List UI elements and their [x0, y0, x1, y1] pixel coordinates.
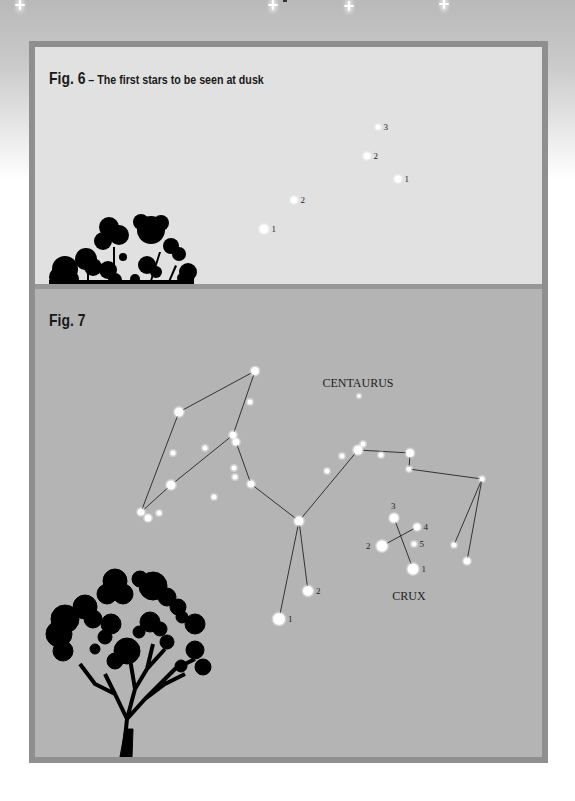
- star-icon: [377, 541, 388, 552]
- star-icon: [303, 586, 313, 596]
- bush-silhouette-icon: [49, 214, 197, 284]
- fig6-stars: [258, 123, 403, 235]
- star-label: 1: [405, 174, 410, 184]
- star-label: 1: [272, 224, 277, 234]
- constellation-name-crux: CRUX: [392, 589, 426, 603]
- star-icon: [157, 511, 162, 516]
- constellation-line: [454, 479, 482, 545]
- constellation-line: [236, 442, 299, 521]
- star-icon: [452, 543, 457, 548]
- star-icon: [203, 446, 208, 451]
- star-label: 5: [420, 539, 425, 549]
- star-label: 3: [391, 501, 396, 511]
- fig7-star-labels: 2134251: [288, 501, 429, 624]
- fig6-star-chart: 12213: [35, 47, 542, 284]
- tree-silhouette-icon: [46, 569, 211, 757]
- constellation-line: [467, 479, 482, 561]
- star-icon: [361, 442, 366, 447]
- star-label: 2: [316, 586, 321, 596]
- star-icon: [167, 481, 176, 490]
- star-icon: [233, 475, 238, 480]
- star-icon: [291, 197, 298, 204]
- star-icon: [175, 408, 184, 417]
- fig7-star-chart: 2134251 CENTAURUSCRUX: [35, 289, 542, 757]
- constellation-line: [279, 521, 299, 619]
- star-icon: [414, 524, 421, 531]
- star-icon: [364, 153, 371, 160]
- star-icon: [390, 514, 399, 523]
- sparkle-star-icon: [439, 0, 449, 9]
- star-label: 4: [424, 522, 429, 532]
- star-label: 2: [374, 151, 379, 161]
- star-icon: [412, 542, 417, 547]
- fig7-stars: [136, 366, 486, 627]
- star-icon: [232, 466, 237, 471]
- sparkle-star-icon: [344, 1, 354, 11]
- star-icon: [138, 509, 145, 516]
- constellation-line: [299, 521, 308, 591]
- star-icon: [357, 394, 361, 398]
- star-icon: [233, 439, 240, 446]
- constellation-line: [141, 435, 233, 512]
- star-icon: [273, 613, 285, 625]
- star-icon: [171, 451, 176, 456]
- star-icon: [408, 564, 419, 575]
- star-icon: [480, 477, 485, 482]
- star-icon: [395, 176, 402, 183]
- star-label: 1: [288, 614, 293, 624]
- star-icon: [260, 225, 269, 234]
- star-icon: [295, 517, 304, 526]
- sparkle-star-icon: [15, 0, 25, 10]
- star-icon: [379, 453, 384, 458]
- figure-frame: Fig. 6 – The first stars to be seen at d…: [29, 41, 548, 763]
- fig7-panel: Fig. 7 2134251 CENTAURUSCRUX: [35, 289, 542, 757]
- star-label: 2: [366, 541, 371, 551]
- star-icon: [406, 449, 414, 457]
- star-icon: [340, 454, 345, 459]
- star-icon: [325, 469, 330, 474]
- star-icon: [248, 481, 255, 488]
- cut-off-title-fragment: [283, 0, 287, 2]
- star-icon: [251, 367, 259, 375]
- constellation-name-centaurus: CENTAURUS: [322, 376, 393, 390]
- fig6-star-labels: 12213: [272, 122, 410, 234]
- star-icon: [145, 515, 152, 522]
- constellation-lines: [141, 371, 482, 619]
- fig6-panel: Fig. 6 – The first stars to be seen at d…: [35, 47, 542, 284]
- star-icon: [212, 495, 217, 500]
- star-icon: [248, 400, 253, 405]
- star-label: 2: [301, 195, 306, 205]
- sparkle-star-icon: [268, 0, 278, 10]
- star-icon: [407, 467, 412, 472]
- star-label: 3: [384, 122, 389, 132]
- star-icon: [464, 558, 471, 565]
- star-icon: [376, 125, 381, 130]
- star-label: 1: [422, 564, 427, 574]
